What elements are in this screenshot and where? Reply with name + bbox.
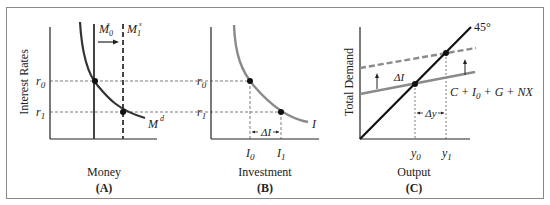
delta-i-label: ΔI <box>260 126 272 138</box>
delta-i-arrowhead-left <box>252 131 255 134</box>
panel-b-xlabel: Investment <box>238 165 292 179</box>
panel-b-tag: (B) <box>257 181 273 195</box>
ad-line-shifted <box>360 48 476 68</box>
c-delta-i-label: ΔI <box>393 71 405 83</box>
panel-a-xlabel: Money <box>87 165 121 179</box>
b-r1-label: r1 <box>197 105 206 121</box>
ad-label: C + I0 + G + NX <box>450 85 533 101</box>
y1-label: y1 <box>441 146 452 162</box>
delta-y-arrowhead-right <box>441 112 444 115</box>
panel-c-tag: (C) <box>406 181 423 195</box>
ms1-sup: s <box>139 20 142 28</box>
line-45-label: 45° <box>474 20 491 34</box>
investment-curve-label: I <box>311 117 317 131</box>
md-label: M <box>147 117 159 131</box>
delta-i-arrowhead-right <box>276 131 279 134</box>
r1-label: r1 <box>36 105 45 121</box>
c-point-1 <box>443 50 449 56</box>
panel-a-ylabel: Interest Rates <box>17 49 31 115</box>
panel-c: Total Demand 45° ΔI C + I0 + G + NX Δy y… <box>342 20 533 195</box>
shift-up-arrowhead-right <box>463 59 467 64</box>
b-point-1 <box>278 109 284 115</box>
equilibrium-point-0 <box>92 78 98 84</box>
i1-label: I1 <box>276 146 286 162</box>
c-point-0 <box>412 81 418 87</box>
equilibrium-point-1 <box>120 109 126 115</box>
ms0-sup: s <box>107 20 110 28</box>
md-sup: d <box>160 114 165 123</box>
b-point-0 <box>247 78 253 84</box>
panel-c-xlabel: Output <box>397 165 431 179</box>
panel-b: r0 r1 I ΔI I0 I1 Investment (B) <box>197 25 319 195</box>
b-r0-label: r0 <box>197 74 207 90</box>
panel-c-ylabel: Total Demand <box>342 48 356 116</box>
i0-label: I0 <box>245 146 255 162</box>
diagram-root: Interest Rates r0 r1 M0 s M1 s M d Money… <box>0 0 550 205</box>
ms0-label: M0 <box>98 22 113 38</box>
shift-up-arrowhead-left <box>375 73 379 78</box>
shift-arrow-head <box>113 40 119 45</box>
y0-label: y0 <box>410 146 421 162</box>
investment-curve <box>234 25 308 122</box>
panel-a-tag: (A) <box>96 181 113 195</box>
delta-y-label: Δy <box>424 107 436 119</box>
r0-label: r0 <box>36 74 46 90</box>
delta-y-arrowhead-left <box>417 112 420 115</box>
